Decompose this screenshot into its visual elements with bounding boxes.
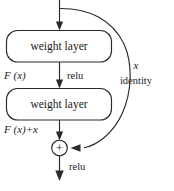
weight-layer-2-node: weight layer (7, 89, 112, 121)
label-f-of-x: F (x) (3, 69, 26, 82)
label-relu-bottom: relu (69, 161, 86, 172)
plus-icon: + (56, 141, 63, 155)
weight-layer-2-label: weight layer (30, 98, 87, 111)
label-shortcut-x: x (133, 59, 139, 71)
arrowhead-into-adder-top (56, 132, 63, 141)
label-f-of-x-plus-x: F (x)+x (3, 123, 38, 136)
label-shortcut-x-text: x (133, 59, 139, 71)
arrowhead-into-block1 (56, 22, 63, 31)
label-identity: identity (120, 75, 153, 86)
label-relu-middle-text: relu (67, 70, 84, 81)
label-f-of-x-plus-x-text: F (x)+x (3, 123, 38, 136)
arrowhead-into-block2 (56, 80, 63, 89)
diagram-canvas: weight layer weight layer + F (0, 0, 174, 191)
weight-layer-1-label: weight layer (30, 40, 87, 53)
label-relu-bottom-text: relu (69, 161, 86, 172)
edge-adder-to-output (55, 156, 63, 181)
label-f-of-x-text: F (x) (3, 69, 26, 82)
arrowhead-into-adder (71, 144, 81, 152)
edge-block1-to-block2 (56, 62, 63, 89)
edge-block2-to-adder (56, 120, 63, 141)
addition-node: + (52, 140, 68, 156)
arrowhead-output (55, 171, 63, 182)
edge-input-to-block1 (56, 0, 63, 31)
label-relu-middle: relu (67, 70, 84, 81)
weight-layer-1-node: weight layer (7, 31, 112, 63)
label-identity-text: identity (120, 75, 153, 86)
residual-block-figure: weight layer weight layer + F (0, 0, 174, 191)
